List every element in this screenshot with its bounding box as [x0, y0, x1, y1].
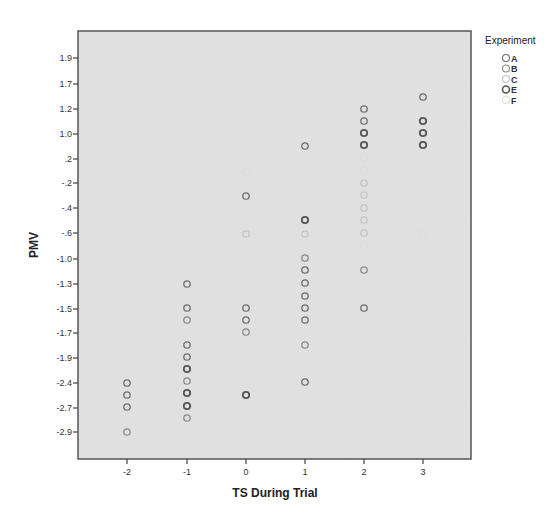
legend-marker-icon: [503, 86, 510, 93]
legend-marker-icon: [503, 76, 510, 83]
y-tick-label: -2.9: [56, 427, 72, 437]
legend-marker-icon: [503, 97, 510, 104]
legend-marker-icon: [503, 55, 510, 62]
y-tick-label: -1.9: [56, 353, 72, 363]
scatter-chart: 1.91.71.21.0.2-.2-.4-.6-1.0-1.3-1.5-1.7-…: [0, 0, 554, 527]
y-tick-label: -2.4: [56, 378, 72, 388]
y-tick-label: 1.0: [59, 129, 72, 139]
x-tick-label: 1: [302, 467, 307, 477]
y-tick-label: -.2: [61, 178, 72, 188]
x-tick-label: -1: [183, 467, 191, 477]
y-tick-label: -.4: [61, 203, 72, 213]
y-tick-label: -1.7: [56, 328, 72, 338]
x-tick-label: 2: [361, 467, 366, 477]
y-tick-label: -2.7: [56, 403, 72, 413]
y-tick-label: .2: [64, 154, 72, 164]
x-tick-label: -2: [123, 467, 131, 477]
legend-label: F: [511, 96, 517, 106]
legend-label: A: [511, 54, 518, 64]
legend-label: B: [511, 64, 518, 74]
y-tick-label: 1.2: [59, 104, 72, 114]
y-tick-label: -1.0: [56, 254, 72, 264]
x-tick-label: 0: [243, 467, 248, 477]
plot-area: [78, 31, 471, 459]
y-tick-label: -1.5: [56, 304, 72, 314]
y-axis-title: PMV: [27, 232, 41, 258]
legend: Experiment ABCEF: [485, 35, 536, 106]
y-tick-label: -.6: [61, 228, 72, 238]
y-axis: 1.91.71.21.0.2-.2-.4-.6-1.0-1.3-1.5-1.7-…: [56, 53, 78, 437]
legend-label: E: [511, 85, 517, 95]
legend-label: C: [511, 75, 518, 85]
x-tick-label: 3: [420, 467, 425, 477]
y-tick-label: 1.7: [59, 79, 72, 89]
x-axis-title: TS During Trial: [232, 486, 317, 500]
y-tick-label: 1.9: [59, 53, 72, 63]
y-tick-label: -1.3: [56, 279, 72, 289]
x-axis: -2-10123: [123, 459, 426, 477]
legend-marker-icon: [503, 65, 510, 72]
legend-title: Experiment: [485, 35, 536, 46]
